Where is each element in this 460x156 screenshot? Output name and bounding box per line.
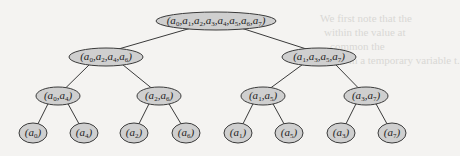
tree-node-l3 xyxy=(327,123,355,143)
tree-node-l4 xyxy=(70,123,98,143)
tree-node-l6 xyxy=(172,123,200,143)
tree-edge xyxy=(376,104,387,124)
tree-edge xyxy=(123,65,152,88)
tree-node-l2 xyxy=(120,123,148,143)
tree-node-root xyxy=(156,12,276,30)
tree-edge xyxy=(243,29,306,49)
tree-node-n15 xyxy=(241,87,285,105)
tree-edge xyxy=(346,104,356,124)
tree-edge xyxy=(119,29,189,49)
tree-node-l5 xyxy=(275,123,303,143)
tree-edge xyxy=(271,65,303,88)
tree-edge xyxy=(243,104,253,124)
tree-edge xyxy=(68,104,79,124)
tree-edge xyxy=(139,104,149,124)
tree-node-n26 xyxy=(137,87,181,105)
tree-node-l1 xyxy=(224,123,252,143)
tree-edge xyxy=(336,65,359,88)
tree-node-n37 xyxy=(344,87,388,105)
tree-node-n13 xyxy=(282,48,356,66)
tree-edge xyxy=(169,104,181,124)
tree-node-l7 xyxy=(378,123,406,143)
tree-node-n02 xyxy=(69,48,143,66)
tree-node-l0 xyxy=(19,123,47,143)
tree-edge xyxy=(273,104,284,124)
tree-node-n04 xyxy=(36,87,80,105)
tree-edge xyxy=(66,65,90,88)
tree-edge xyxy=(38,104,48,124)
